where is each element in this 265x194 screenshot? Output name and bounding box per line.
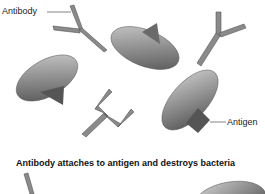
antibody-icon (197, 12, 246, 66)
antibody-icon (24, 173, 34, 194)
diagram-caption: Antibody attaches to antigen and destroy… (16, 158, 235, 168)
bacterium-icon (9, 45, 86, 110)
antibody-label: Antibody (2, 6, 37, 16)
bacterium-icon (191, 176, 265, 194)
antigen-label: Antigen (227, 117, 258, 127)
bacterium-icon (152, 60, 228, 139)
antibody-icon (82, 89, 134, 137)
bacterium-icon (105, 18, 185, 78)
